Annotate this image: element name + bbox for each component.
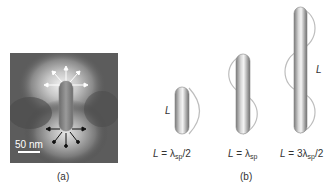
equation-half-wavelength: L = λsp/2 (153, 148, 191, 160)
nanorod-medium (236, 54, 250, 134)
standing-wave-1 (189, 88, 200, 134)
nanorod-short (175, 87, 189, 134)
equation-three-half-wavelength: L = 3λsp/2 (280, 148, 323, 160)
panel-b-caption: (b) (240, 171, 252, 182)
nanorod-long (294, 7, 307, 133)
panel-a-caption: (a) (57, 171, 69, 182)
scale-bar-label: 50 nm (15, 139, 43, 150)
equation-full-wavelength: L = λsp (228, 148, 257, 160)
length-label-short: L (165, 105, 171, 116)
nanorod-diagram (140, 0, 336, 150)
scale-bar (18, 151, 40, 153)
length-label-long: L (316, 64, 322, 75)
